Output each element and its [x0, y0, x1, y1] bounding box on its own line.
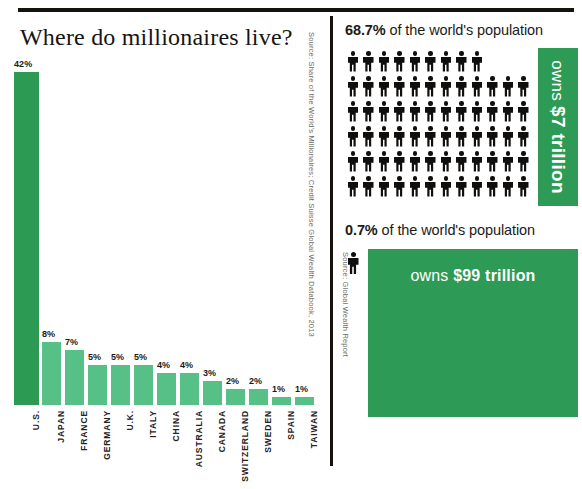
- bar-value-label: 4%: [157, 360, 176, 370]
- person-icon: [376, 100, 392, 125]
- person-icon: [438, 175, 454, 200]
- person-icon: [469, 100, 485, 125]
- person-icon: [438, 150, 454, 175]
- person-icon: [392, 125, 408, 150]
- person-icon: [469, 50, 485, 75]
- person-icon: [438, 50, 454, 75]
- person-icon: [485, 125, 501, 150]
- bar: [180, 373, 199, 405]
- person-icon: [500, 125, 516, 150]
- person-icon: [361, 125, 377, 150]
- axis-tick-label: JAPAN: [56, 410, 66, 443]
- person-icon: [376, 175, 392, 200]
- person-icon: [485, 175, 501, 200]
- right-source-note: Source: Global Wealth Report: [341, 252, 350, 357]
- page-title: Where do millionaires live?: [20, 24, 293, 51]
- person-icon: [469, 75, 485, 100]
- person-icon: [376, 75, 392, 100]
- person-icon: [516, 175, 532, 200]
- person-icon: [345, 175, 361, 200]
- person-icon: [345, 125, 361, 150]
- person-icon: [345, 150, 361, 175]
- axis-tick-label: GERMANY: [102, 410, 112, 460]
- bar: [65, 350, 84, 406]
- bar-value-label: 8%: [42, 329, 61, 339]
- bar: [157, 373, 176, 405]
- axis-tick-label: CANADA: [217, 410, 227, 452]
- person-icon: [469, 150, 485, 175]
- infographic-page: Where do millionaires live? 42%8%7%5%5%5…: [0, 0, 582, 489]
- person-icon: [345, 50, 361, 75]
- person-icon: [392, 75, 408, 100]
- panel-divider: [330, 16, 333, 466]
- wealth-distribution-panel: 68.7% of the world's population owns $7 …: [342, 12, 582, 489]
- person-icon: [407, 50, 423, 75]
- bar-value-label: 5%: [111, 352, 130, 362]
- axis-tick-label: ITALY: [148, 410, 158, 438]
- person-icon: [423, 150, 439, 175]
- top-strip-value: $7 trillion: [548, 106, 569, 194]
- person-icon: [454, 75, 470, 100]
- person-icon: [423, 175, 439, 200]
- bottom-wealth-block-label: owns $99 trillion: [368, 267, 578, 285]
- top-stat-percent: 68.7%: [345, 22, 386, 38]
- bar: [249, 389, 268, 405]
- bottom-block-value: $99 trillion: [453, 267, 535, 284]
- top-strip-prefix: owns: [548, 60, 567, 106]
- person-icon: [407, 175, 423, 200]
- person-icon: [485, 100, 501, 125]
- person-icon: [438, 75, 454, 100]
- person-icon: [485, 75, 501, 100]
- axis-tick-label: U.S.: [31, 410, 41, 430]
- person-icon: [516, 100, 532, 125]
- person-icon: [454, 50, 470, 75]
- bar-value-label: 2%: [226, 376, 245, 386]
- person-icon: [500, 100, 516, 125]
- person-icon: [485, 150, 501, 175]
- bar-value-label: 5%: [88, 352, 107, 362]
- person-icon: [345, 100, 361, 125]
- bottom-wealth-block: owns $99 trillion: [368, 249, 578, 417]
- left-source-note: Source: Share of the World's Millionaire…: [307, 32, 316, 337]
- bottom-stat-percent: 0.7%: [345, 222, 378, 238]
- axis-tick-label: SWITZERLAND: [240, 410, 250, 482]
- person-icon: [454, 150, 470, 175]
- person-icon: [407, 150, 423, 175]
- person-icon: [392, 50, 408, 75]
- person-icon: [469, 125, 485, 150]
- bar: [111, 365, 130, 405]
- person-icon: [454, 125, 470, 150]
- person-icon: [516, 75, 532, 100]
- person-icon: [345, 75, 361, 100]
- person-icon: [516, 125, 532, 150]
- bottom-block-prefix: owns: [410, 267, 453, 284]
- person-icon: [423, 50, 439, 75]
- axis-tick-label: FRANCE: [79, 410, 89, 451]
- person-icon: [376, 125, 392, 150]
- bar-value-label: 4%: [180, 360, 199, 370]
- millionaires-chart-panel: Where do millionaires live? 42%8%7%5%5%5…: [0, 12, 330, 489]
- person-icon: [361, 75, 377, 100]
- bar-value-label: 5%: [134, 352, 153, 362]
- person-icon: [423, 100, 439, 125]
- axis-tick-label: SPAIN: [286, 410, 296, 440]
- bar-chart-axis-labels: U.S.JAPANFRANCEGERMANYU.K.ITALYCHINAAUST…: [14, 410, 324, 489]
- person-icon: [407, 125, 423, 150]
- person-icon: [407, 100, 423, 125]
- person-icon: [361, 150, 377, 175]
- bar: [134, 365, 153, 405]
- bar-value-label: 2%: [249, 376, 268, 386]
- top-stat-headline: 68.7% of the world's population: [345, 22, 543, 38]
- bottom-stat-text: of the world's population: [378, 222, 535, 238]
- population-pictogram-grid: [345, 50, 531, 200]
- bar-value-label: 3%: [203, 368, 222, 378]
- bar: [295, 397, 314, 405]
- axis-tick-label: CHINA: [171, 410, 181, 441]
- bar: [272, 397, 291, 405]
- person-icon: [392, 150, 408, 175]
- person-icon: [376, 50, 392, 75]
- person-icon: [438, 100, 454, 125]
- person-icon: [500, 150, 516, 175]
- person-icon: [423, 125, 439, 150]
- person-icon: [392, 100, 408, 125]
